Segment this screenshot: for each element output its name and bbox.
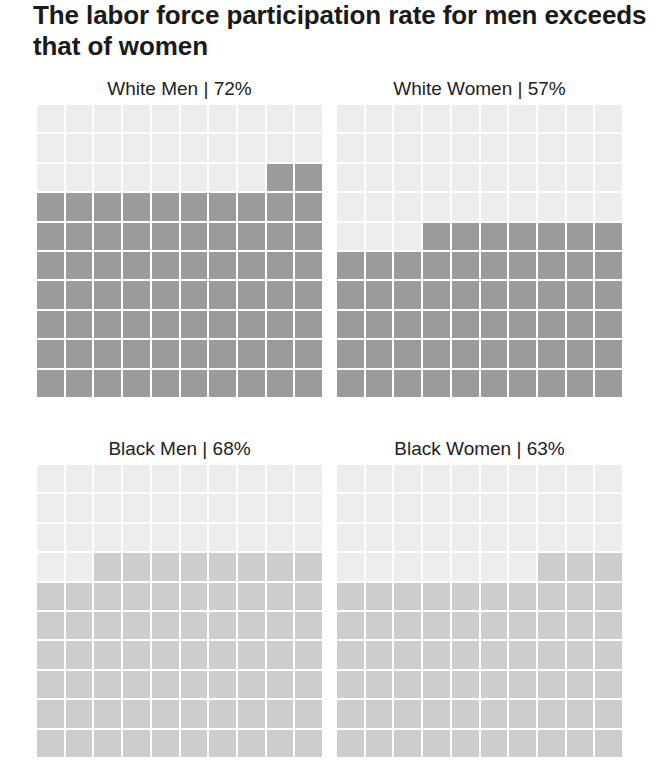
waffle-cell-empty [452, 164, 479, 191]
waffle-cell-filled [37, 700, 64, 727]
waffle-cell-filled [66, 340, 93, 367]
waffle-cell-empty [123, 494, 150, 521]
waffle-cell-empty [481, 193, 508, 220]
waffle-cell-filled [567, 553, 594, 580]
waffle-cell-empty [94, 524, 121, 551]
waffle-cell-empty [595, 465, 622, 492]
waffle-cell-filled [238, 641, 265, 668]
waffle-cell-filled [209, 311, 236, 338]
waffle-cell-filled [452, 700, 479, 727]
waffle-cell-filled [181, 583, 208, 610]
waffle-cell-filled [94, 193, 121, 220]
waffle-cell-filled [509, 223, 536, 250]
waffle-cell-empty [423, 164, 450, 191]
waffle-cell-empty [366, 193, 393, 220]
waffle-cell-filled [394, 612, 421, 639]
waffle-cell-filled [366, 370, 393, 397]
waffle-cell-filled [509, 671, 536, 698]
waffle-cell-filled [37, 281, 64, 308]
waffle-cell-filled [595, 553, 622, 580]
waffle-cell-empty [394, 134, 421, 161]
waffle-cell-filled [209, 671, 236, 698]
waffle-cell-filled [509, 281, 536, 308]
waffle-cell-filled [152, 223, 179, 250]
panel-label: Black Women | 63% [337, 438, 622, 460]
waffle-cell-empty [181, 164, 208, 191]
waffle-cell-empty [337, 164, 364, 191]
waffle-cell-filled [209, 370, 236, 397]
waffle-cell-empty [452, 494, 479, 521]
waffle-cell-filled [481, 730, 508, 757]
waffle-cell-empty [567, 193, 594, 220]
waffle-cell-empty [267, 494, 294, 521]
waffle-cell-filled [366, 700, 393, 727]
waffle-cell-filled [509, 252, 536, 279]
waffle-cell-empty [337, 105, 364, 132]
waffle-cell-filled [509, 583, 536, 610]
waffle-cell-filled [337, 612, 364, 639]
waffle-cell-filled [267, 583, 294, 610]
waffle-cell-filled [267, 223, 294, 250]
waffle-cell-empty [538, 164, 565, 191]
waffle-cell-filled [94, 583, 121, 610]
waffle-cell-empty [481, 524, 508, 551]
waffle-cell-filled [123, 553, 150, 580]
waffle-cell-filled [37, 641, 64, 668]
waffle-cell-filled [94, 641, 121, 668]
waffle-cell-filled [267, 700, 294, 727]
waffle-cell-filled [181, 281, 208, 308]
waffle-cell-filled [123, 700, 150, 727]
waffle-cell-empty [66, 553, 93, 580]
waffle-cell-filled [123, 583, 150, 610]
waffle-cell-filled [267, 671, 294, 698]
waffle-cell-empty [538, 134, 565, 161]
waffle-cell-filled [209, 700, 236, 727]
waffle-cell-filled [423, 340, 450, 367]
waffle-cell-filled [595, 223, 622, 250]
waffle-cell-filled [181, 370, 208, 397]
waffle-cell-filled [452, 281, 479, 308]
waffle-cell-filled [567, 311, 594, 338]
waffle-cell-filled [123, 671, 150, 698]
waffle-cell-filled [238, 252, 265, 279]
waffle-cell-filled [181, 671, 208, 698]
waffle-cell-empty [238, 494, 265, 521]
waffle-cell-empty [37, 105, 64, 132]
waffle-cell-filled [295, 164, 322, 191]
waffle-cell-empty [423, 465, 450, 492]
waffle-cell-filled [152, 730, 179, 757]
waffle-cell-empty [152, 134, 179, 161]
waffle-cell-empty [509, 494, 536, 521]
chart-title: The labor force participation rate for m… [33, 0, 653, 62]
waffle-cell-filled [94, 311, 121, 338]
waffle-cell-filled [394, 671, 421, 698]
waffle-cell-filled [123, 370, 150, 397]
waffle-cell-filled [209, 223, 236, 250]
panel-label: Black Men | 68% [37, 438, 322, 460]
waffle-cell-empty [394, 105, 421, 132]
waffle-cell-filled [423, 641, 450, 668]
waffle-cell-filled [295, 553, 322, 580]
waffle-cell-filled [152, 553, 179, 580]
waffle-cell-empty [238, 465, 265, 492]
waffle-cell-empty [366, 164, 393, 191]
waffle-cell-empty [337, 134, 364, 161]
waffle-cell-filled [152, 641, 179, 668]
waffle-cell-filled [37, 612, 64, 639]
waffle-cell-empty [337, 465, 364, 492]
waffle-cell-filled [509, 340, 536, 367]
waffle-cell-empty [152, 465, 179, 492]
waffle-cell-filled [123, 281, 150, 308]
waffle-cell-empty [66, 524, 93, 551]
waffle-cell-filled [538, 340, 565, 367]
waffle-cell-empty [267, 134, 294, 161]
waffle-cell-filled [366, 252, 393, 279]
waffle-cell-filled [295, 730, 322, 757]
waffle-cell-filled [366, 641, 393, 668]
waffle-cell-filled [567, 223, 594, 250]
waffle-cell-filled [295, 370, 322, 397]
waffle-cell-empty [567, 105, 594, 132]
waffle-cell-filled [66, 583, 93, 610]
waffle-cell-filled [337, 583, 364, 610]
waffle-cell-filled [394, 370, 421, 397]
